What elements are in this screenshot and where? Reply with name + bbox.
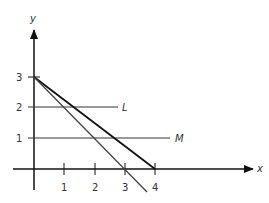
y-axis-label: y [29, 13, 37, 24]
line-3-to-3 [34, 77, 147, 192]
y-tick-label-1: 1 [16, 133, 22, 144]
y-tick-label-2: 2 [16, 102, 22, 113]
x-axis-label: x [256, 163, 263, 174]
x-tick-label-1: 1 [61, 182, 67, 193]
line-L-label: L [122, 102, 128, 113]
line-3-to-4 [34, 77, 155, 169]
y-tick-label-3: 3 [16, 72, 22, 83]
x-tick-label-3: 3 [122, 182, 128, 193]
line-M-label: M [175, 133, 184, 144]
x-tick-label-4: 4 [152, 182, 158, 193]
x-tick-label-2: 2 [92, 182, 98, 193]
coordinate-diagram: y x 1 2 3 4 3 2 1 L M [0, 0, 269, 203]
